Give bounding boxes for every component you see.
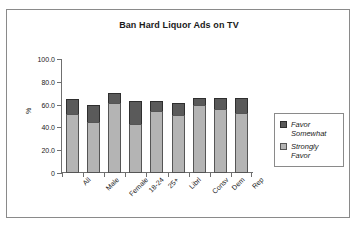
bar-group bbox=[62, 59, 252, 173]
x-axis-label: Male bbox=[104, 176, 120, 192]
bar-slot bbox=[104, 59, 125, 173]
x-axis-label: Female bbox=[128, 176, 149, 197]
y-tick-label: 40.0 bbox=[41, 124, 55, 131]
bar-segment-favor-somewhat[interactable] bbox=[150, 101, 163, 111]
x-axis-label: All bbox=[81, 176, 91, 186]
y-tick-label: 100.0 bbox=[37, 56, 55, 63]
y-tick-label: 20.0 bbox=[41, 147, 55, 154]
bar-slot bbox=[168, 59, 189, 173]
bar-segment-favor-somewhat[interactable] bbox=[235, 98, 248, 113]
stacked-bar[interactable] bbox=[235, 98, 248, 173]
chart-legend: Favor SomewhatStrongly Favor bbox=[274, 113, 344, 167]
stacked-bar[interactable] bbox=[214, 98, 227, 173]
y-tick-label: 0 bbox=[51, 170, 55, 177]
bar-segment-strongly-favor[interactable] bbox=[108, 103, 121, 173]
x-axis-label: Librl bbox=[188, 176, 202, 190]
stacked-bar[interactable] bbox=[150, 101, 163, 173]
bar-segment-favor-somewhat[interactable] bbox=[172, 103, 185, 114]
bar-segment-strongly-favor[interactable] bbox=[129, 124, 142, 173]
bar-slot bbox=[62, 59, 83, 173]
chart-frame: Ban Hard Liquor Ads on TV % 020.040.060.… bbox=[6, 9, 350, 218]
bar-segment-favor-somewhat[interactable] bbox=[193, 98, 206, 105]
bar-slot bbox=[83, 59, 104, 173]
stacked-bar[interactable] bbox=[66, 99, 79, 173]
legend-label: Strongly Favor bbox=[291, 142, 339, 160]
plot-area: 020.040.060.080.0100.0 bbox=[61, 59, 252, 173]
chart-title: Ban Hard Liquor Ads on TV bbox=[7, 20, 351, 30]
bar-segment-strongly-favor[interactable] bbox=[235, 113, 248, 173]
bar-slot bbox=[231, 59, 252, 173]
y-tick-label: 60.0 bbox=[41, 101, 55, 108]
x-axis-label: Consv bbox=[211, 176, 230, 195]
x-axis-labels: AllMaleFemale18-2425+LibrlConsvDemRep bbox=[62, 176, 252, 220]
x-axis-label: 18-24 bbox=[147, 176, 165, 194]
stacked-bar[interactable] bbox=[108, 93, 121, 173]
bar-slot bbox=[210, 59, 231, 173]
y-axis-title: % bbox=[25, 108, 32, 114]
bar-segment-strongly-favor[interactable] bbox=[193, 105, 206, 173]
x-axis-label: 25+ bbox=[166, 176, 179, 189]
bar-segment-favor-somewhat[interactable] bbox=[66, 99, 79, 114]
bar-segment-strongly-favor[interactable] bbox=[150, 111, 163, 173]
bar-segment-strongly-favor[interactable] bbox=[66, 114, 79, 173]
bar-segment-favor-somewhat[interactable] bbox=[87, 105, 100, 122]
legend-label: Favor Somewhat bbox=[291, 120, 339, 138]
bar-slot bbox=[146, 59, 167, 173]
y-tick-label: 80.0 bbox=[41, 78, 55, 85]
bar-slot bbox=[125, 59, 146, 173]
stacked-bar[interactable] bbox=[87, 105, 100, 173]
bar-segment-strongly-favor[interactable] bbox=[214, 109, 227, 173]
stacked-bar[interactable] bbox=[172, 103, 185, 173]
bar-segment-favor-somewhat[interactable] bbox=[214, 98, 227, 109]
legend-swatch-icon bbox=[280, 121, 287, 128]
stacked-bar[interactable] bbox=[193, 98, 206, 173]
legend-item[interactable]: Strongly Favor bbox=[280, 142, 339, 160]
chart-page: Ban Hard Liquor Ads on TV % 020.040.060.… bbox=[0, 0, 358, 228]
x-axis-label: Dem bbox=[231, 176, 246, 191]
stacked-bar[interactable] bbox=[129, 101, 142, 173]
bar-segment-strongly-favor[interactable] bbox=[172, 115, 185, 173]
legend-item[interactable]: Favor Somewhat bbox=[280, 120, 339, 138]
bar-slot bbox=[189, 59, 210, 173]
x-axis-label: Rep bbox=[251, 176, 265, 190]
bar-segment-favor-somewhat[interactable] bbox=[108, 93, 121, 103]
bar-segment-strongly-favor[interactable] bbox=[87, 122, 100, 173]
bar-segment-favor-somewhat[interactable] bbox=[129, 101, 142, 124]
legend-swatch-icon bbox=[280, 143, 287, 150]
